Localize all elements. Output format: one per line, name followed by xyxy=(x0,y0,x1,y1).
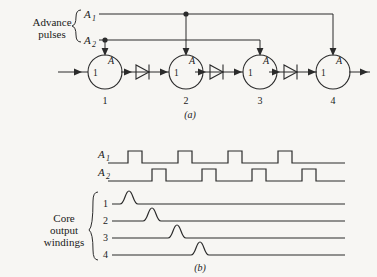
core-2: 1 A 2 xyxy=(169,55,203,106)
core-1-inner-left-label: 1 xyxy=(93,68,98,78)
arrowhead-into-diode-1 xyxy=(124,69,132,76)
core-output-windings-label-line2: output xyxy=(50,224,78,236)
waveform-A2 xyxy=(108,169,345,181)
arrowhead-into-diode-3 xyxy=(272,69,280,76)
panel-b: A 1 A 2 Core output windings 1 2 3 4 (b) xyxy=(44,148,345,274)
arrowhead-into-core-2 xyxy=(160,69,168,76)
core-output-windings-brace xyxy=(89,192,98,260)
winding-label-2: 2 xyxy=(103,215,108,226)
input-label-a2: A xyxy=(83,34,91,46)
waveform-winding-4 xyxy=(112,242,345,255)
waveform-label-a2: A xyxy=(97,166,105,178)
advance-pulses-label-line1: Advance xyxy=(32,16,71,28)
winding-label-1: 1 xyxy=(103,198,108,209)
core-3-index-label: 3 xyxy=(258,95,263,106)
core-1-index-label: 1 xyxy=(103,95,108,106)
core-4-index-label: 4 xyxy=(331,95,336,106)
core-4-inner-left-label: 1 xyxy=(321,68,326,78)
advance-pulses-label-line2: pulses xyxy=(38,28,66,40)
waveform-traces xyxy=(108,151,345,255)
arrowhead-chain-input xyxy=(74,69,82,76)
waveform-label-a1-subscript: 1 xyxy=(106,154,110,163)
panel-a: Advance pulses A 1 A 2 xyxy=(32,8,370,121)
core-shift-register-figure: Advance pulses A 1 A 2 xyxy=(0,0,377,277)
arrowhead-chain-output xyxy=(360,69,368,76)
waveform-winding-1 xyxy=(112,191,345,204)
arrowhead-into-core-3 xyxy=(234,69,242,76)
waveform-winding-2 xyxy=(112,208,345,221)
core-3-inner-right-label: A xyxy=(262,55,270,66)
core-3-inner-left-label: 1 xyxy=(248,68,253,78)
core-output-windings-label-line1: Core xyxy=(53,212,75,224)
advance-pulses-brace xyxy=(72,10,81,42)
core-2-inner-left-label: 1 xyxy=(174,68,179,78)
waveform-label-a1: A xyxy=(97,148,105,160)
input-label-a1-subscript: 1 xyxy=(92,14,96,23)
arrowhead-into-core-4 xyxy=(308,69,316,76)
junction-dot-a1-core2 xyxy=(183,11,188,16)
figure-canvas: Advance pulses A 1 A 2 xyxy=(0,0,377,277)
core-1-inner-right-label: A xyxy=(107,55,115,66)
winding-label-4: 4 xyxy=(103,249,108,260)
winding-label-3: 3 xyxy=(103,232,108,243)
core-1: 1 A 1 xyxy=(88,55,122,106)
waveform-winding-3 xyxy=(112,225,345,238)
core-2-index-label: 2 xyxy=(184,95,189,106)
core-4: 1 A 4 xyxy=(316,55,350,106)
core-output-windings-label-line3: windings xyxy=(44,236,84,248)
panel-a-caption: (a) xyxy=(184,109,196,121)
core-4-inner-right-label: A xyxy=(335,55,343,66)
core-2-inner-right-label: A xyxy=(188,55,196,66)
waveform-A1 xyxy=(108,151,345,163)
panel-b-caption: (b) xyxy=(194,262,206,274)
input-label-a1: A xyxy=(83,8,91,20)
input-label-a2-subscript: 2 xyxy=(92,40,96,49)
waveform-label-a2-subscript: 2 xyxy=(106,172,110,181)
core-3: 1 A 3 xyxy=(243,55,277,106)
arrowhead-into-diode-2 xyxy=(198,69,206,76)
junction-dot-a2-core1 xyxy=(102,37,107,42)
